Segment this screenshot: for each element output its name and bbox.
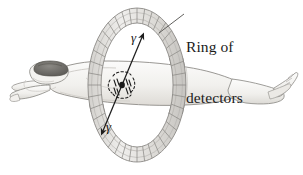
ring-of-detectors-label: Ring of detectors	[186, 6, 243, 140]
annihilation-point	[119, 82, 125, 89]
pet-scanner-figure: Ring of detectors γ γ	[0, 0, 303, 175]
gamma-lower-label: γ	[106, 119, 111, 135]
ring-label-line1: Ring of	[186, 39, 243, 56]
ring-label-line2: detectors	[186, 90, 243, 107]
gamma-upper-label: γ	[131, 30, 136, 46]
illustration-canvas	[0, 0, 303, 175]
patient-figure	[10, 61, 298, 105]
